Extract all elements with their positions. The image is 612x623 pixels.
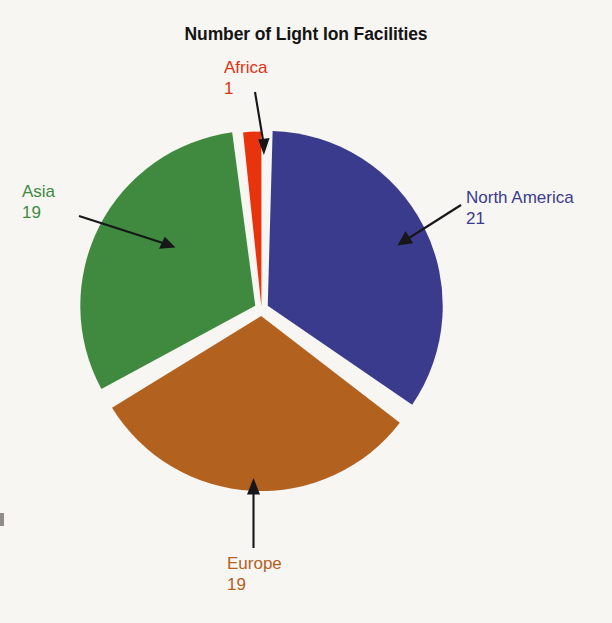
slice-label-north-america: North America 21 (466, 187, 574, 229)
slice-label-asia-name: Asia (22, 181, 55, 202)
slice-label-africa-value: 1 (224, 78, 267, 99)
pie-chart-graphic (0, 0, 612, 623)
slice-label-africa: Africa 1 (224, 57, 267, 99)
slice-label-north-america-name: North America (466, 187, 574, 208)
slice-label-north-america-value: 21 (466, 208, 574, 229)
slice-label-africa-name: Africa (224, 57, 267, 78)
slice-label-europe-name: Europe (227, 553, 282, 574)
pie-chart-figure: Number of Light Ion Facilities (0, 0, 612, 623)
scan-edge-artifact (0, 513, 4, 526)
slice-label-asia-value: 19 (22, 202, 55, 223)
slice-label-europe: Europe 19 (227, 553, 282, 595)
slice-label-asia: Asia 19 (22, 181, 55, 223)
slice-label-europe-value: 19 (227, 574, 282, 595)
